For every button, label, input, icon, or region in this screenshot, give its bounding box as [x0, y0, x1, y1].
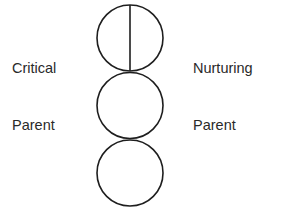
adult-circle	[97, 73, 163, 139]
nurturing-parent-line1: Nurturing	[193, 59, 253, 78]
ego-state-diagram: Critical Parent Nurturing Parent	[0, 0, 282, 221]
child-circle	[97, 140, 163, 206]
nurturing-parent-label: Nurturing Parent	[193, 21, 253, 173]
critical-parent-line1: Critical	[12, 59, 56, 78]
critical-parent-line2: Parent	[12, 116, 56, 135]
nurturing-parent-line2: Parent	[193, 116, 253, 135]
critical-parent-label: Critical Parent	[12, 21, 56, 173]
